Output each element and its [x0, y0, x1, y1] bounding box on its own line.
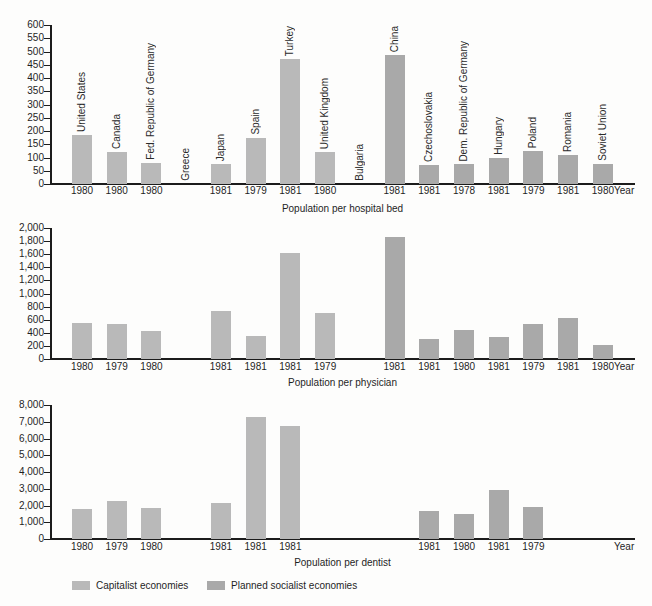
legend-swatch-capitalist [72, 581, 90, 590]
legend-label-capitalist: Capitalist economies [96, 580, 188, 591]
legend: Capitalist economies Planned socialist e… [0, 0, 652, 606]
legend-label-socialist: Planned socialist economies [231, 580, 357, 591]
legend-swatch-socialist [207, 581, 225, 590]
triple-bar-chart-figure: 0501001502002503003504004505005506001980… [0, 0, 652, 606]
